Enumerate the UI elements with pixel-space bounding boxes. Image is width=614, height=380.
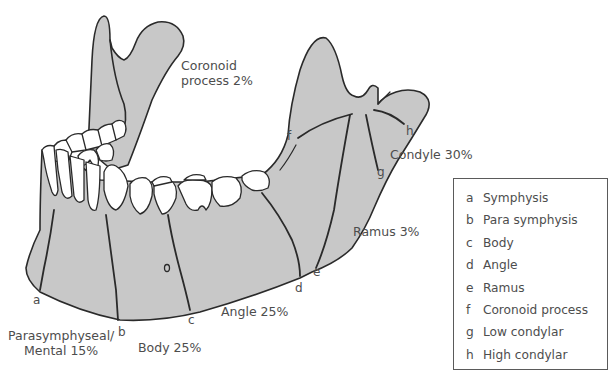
- legend-box: a Symphysis b Para symphysis c Body d An…: [453, 178, 608, 370]
- site-letter-f: f: [287, 130, 291, 142]
- legend-item-d: d Angle: [466, 254, 607, 276]
- legend-item-e: e Ramus: [466, 277, 607, 299]
- site-letter-h: h: [406, 125, 414, 137]
- label-parasymphyseal: Parasymphyseal/ Mental 15%: [8, 328, 114, 358]
- label-coronoid-process: Coronoid process 2%: [181, 58, 253, 88]
- site-letter-c: c: [188, 314, 195, 326]
- site-letter-e: e: [313, 266, 320, 278]
- legend-item-g: g Low condylar: [466, 321, 607, 343]
- site-letter-b: b: [118, 326, 126, 338]
- site-letter-a: a: [33, 294, 40, 306]
- label-ramus: Ramus 3%: [353, 224, 420, 239]
- label-body: Body 25%: [138, 340, 201, 355]
- label-angle: Angle 25%: [221, 304, 288, 319]
- legend-item-h: h High condylar: [466, 344, 607, 366]
- legend-item-a: a Symphysis: [466, 187, 607, 209]
- legend-item-b: b Para symphysis: [466, 209, 607, 231]
- label-condyle: Condyle 30%: [390, 147, 473, 162]
- legend-item-c: c Body: [466, 232, 607, 254]
- site-letter-d: d: [295, 282, 303, 294]
- legend-item-f: f Coronoid process: [466, 299, 607, 321]
- site-letter-g: g: [377, 166, 385, 178]
